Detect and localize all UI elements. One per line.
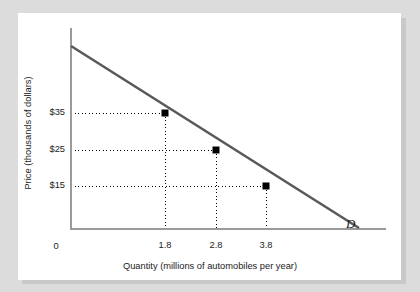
chart-screenshot: Price (thousands of dollars) Quantity (m…	[0, 0, 420, 292]
y-tick-label-15: $15	[31, 180, 65, 190]
x-tick-label-3-8: 3.8	[249, 240, 283, 250]
x-tick-label-1-8: 1.8	[148, 240, 182, 250]
y-tick-label-35: $35	[31, 107, 65, 117]
data-point-markers	[162, 110, 270, 190]
data-point-15	[263, 183, 270, 190]
origin-label: 0	[46, 241, 66, 251]
x-axis-title: Quantity (millions of automobiles per ye…	[0, 261, 420, 271]
y-tick-label-25: $25	[31, 144, 65, 154]
x-tick-label-2-8: 2.8	[199, 240, 233, 250]
demand-curve-label: D	[346, 216, 355, 232]
axes	[70, 28, 386, 229]
demand-curve	[71, 46, 359, 228]
data-point-35	[162, 110, 169, 117]
data-point-25	[213, 147, 220, 154]
guide-lines	[71, 113, 266, 228]
y-axis-title: Price (thousands of dollars)	[23, 76, 33, 189]
